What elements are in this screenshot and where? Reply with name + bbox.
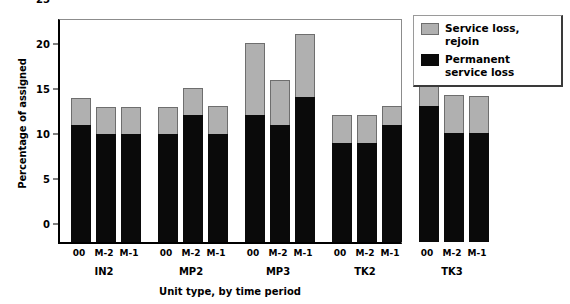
bar-segment-permanent-service-loss <box>270 125 290 242</box>
bar-segment-permanent-service-loss <box>469 133 489 242</box>
x-tick-label: M-1 <box>370 248 410 258</box>
legend-label: Service loss, rejoin <box>445 22 555 47</box>
bar-segment-permanent-service-loss <box>419 106 439 242</box>
bar <box>357 115 377 242</box>
x-group-label: TK3 <box>422 266 482 277</box>
bar <box>382 106 402 242</box>
y-tick-label: 5 <box>43 174 50 185</box>
y-tick-mark <box>53 89 60 90</box>
y-tick-label: 20 <box>36 39 50 50</box>
bar-segment-service-loss-rejoin <box>444 95 464 133</box>
legend-item: Service loss, rejoin <box>421 22 555 47</box>
chart-legend: Service loss, rejoin Permanent service l… <box>413 15 563 87</box>
y-tick: 15 <box>36 79 60 98</box>
y-tick: 5 <box>43 169 60 188</box>
x-tick-label: M-1 <box>457 248 497 258</box>
bar-segment-permanent-service-loss <box>245 115 265 242</box>
bar-segment-service-loss-rejoin <box>208 106 228 134</box>
y-tick: 0 <box>43 214 60 233</box>
bar-segment-permanent-service-loss <box>295 97 315 242</box>
x-tick-label: M-1 <box>109 248 149 258</box>
x-group-label: IN2 <box>74 266 134 277</box>
bar <box>121 107 141 242</box>
bar <box>295 34 315 242</box>
x-tick-label: M-1 <box>283 248 323 258</box>
y-tick-mark <box>53 134 60 135</box>
y-tick: 10 <box>36 124 60 143</box>
bar-segment-service-loss-rejoin <box>158 107 178 134</box>
bar-series-container <box>60 20 401 242</box>
bar <box>469 96 489 242</box>
y-axis-title: Percentage of assigned <box>17 24 28 224</box>
bar <box>71 98 91 242</box>
legend-swatch-permanent-service-loss <box>421 54 439 66</box>
x-axis-title: Unit type, by time period <box>58 286 402 297</box>
bar <box>158 107 178 242</box>
bar-segment-permanent-service-loss <box>332 143 352 242</box>
legend-swatch-service-loss-rejoin <box>421 23 439 35</box>
y-tick-mark <box>53 44 60 45</box>
y-tick-label: 15 <box>36 84 50 95</box>
bar-segment-service-loss-rejoin <box>183 88 203 115</box>
bar-segment-service-loss-rejoin <box>469 96 489 133</box>
bar-segment-service-loss-rejoin <box>295 34 315 97</box>
bar-segment-service-loss-rejoin <box>245 43 265 115</box>
bar-segment-permanent-service-loss <box>158 134 178 242</box>
bar-segment-permanent-service-loss <box>357 143 377 242</box>
bar-segment-service-loss-rejoin <box>332 115 352 143</box>
y-tick-label: 25 <box>36 0 50 5</box>
bar-segment-service-loss-rejoin <box>71 98 91 125</box>
legend-item: Permanent service loss <box>421 53 555 78</box>
bar <box>444 95 464 242</box>
bar-segment-permanent-service-loss <box>183 115 203 242</box>
bar-segment-permanent-service-loss <box>382 125 402 242</box>
y-tick-label: 0 <box>43 219 50 230</box>
bar <box>208 106 228 242</box>
bar-segment-permanent-service-loss <box>71 125 91 242</box>
bar-segment-permanent-service-loss <box>208 134 228 242</box>
bar-segment-permanent-service-loss <box>444 133 464 242</box>
plot-area: 0510152025 <box>58 19 402 244</box>
bar <box>96 107 116 242</box>
bar <box>332 115 352 242</box>
x-tick-label: M-1 <box>196 248 236 258</box>
x-group-label: MP2 <box>161 266 221 277</box>
x-group-label: TK2 <box>335 266 395 277</box>
bar <box>245 43 265 242</box>
y-tick-mark <box>53 179 60 180</box>
bar-segment-service-loss-rejoin <box>121 107 141 134</box>
bar-segment-service-loss-rejoin <box>96 107 116 134</box>
y-tick-label: 10 <box>36 129 50 140</box>
bar-segment-service-loss-rejoin <box>382 106 402 125</box>
legend-label: Permanent service loss <box>445 53 555 78</box>
bar-segment-service-loss-rejoin <box>357 115 377 143</box>
y-tick-mark <box>53 224 60 225</box>
y-tick: 20 <box>36 34 60 53</box>
x-group-label: MP3 <box>248 266 308 277</box>
bar-segment-permanent-service-loss <box>96 134 116 242</box>
bar-segment-service-loss-rejoin <box>270 80 290 125</box>
y-tick: 25 <box>36 0 60 8</box>
chart-figure: Percentage of assigned 0510152025 00M-2M… <box>0 0 570 304</box>
bar <box>183 88 203 242</box>
bar <box>270 80 290 242</box>
bar-segment-permanent-service-loss <box>121 134 141 242</box>
